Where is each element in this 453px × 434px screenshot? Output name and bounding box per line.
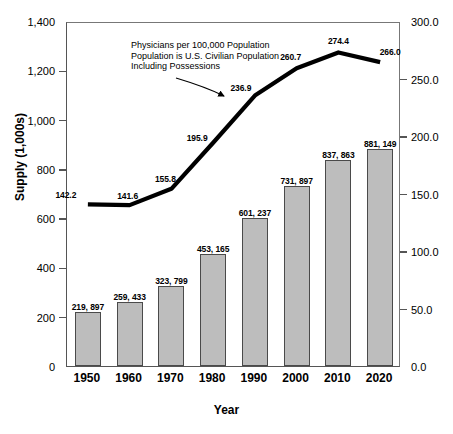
bar-value-label: 323, 799: [155, 276, 187, 286]
y-tick-mark: [59, 169, 66, 170]
right-y-axis: 0.050.0100.0150.0200.0250.0300.0: [400, 22, 453, 367]
y2-tick-mark: [400, 194, 407, 195]
y2-tick-label: 100.0: [411, 246, 439, 258]
y2-tick-label: 300.0: [411, 16, 439, 28]
line-value-label: 195.9: [187, 133, 208, 143]
bar-value-label: 837, 863: [322, 150, 354, 160]
annotation-line-3: Including Possessions: [131, 61, 279, 72]
line-value-label: 260.7: [280, 52, 301, 62]
y2-tick-label: 200.0: [411, 131, 439, 143]
line-value-label: 155.8: [155, 174, 176, 184]
y-tick-label: 1,000: [27, 115, 55, 127]
y-tick-mark: [59, 120, 66, 121]
line-value-label: 274.4: [328, 36, 349, 46]
y2-tick-label: 0.0: [411, 361, 426, 373]
y2-tick-label: 150.0: [411, 189, 439, 201]
x-tick-label: 2010: [324, 371, 351, 385]
x-tick-label: 1970: [157, 371, 184, 385]
y2-tick-mark: [400, 251, 407, 252]
bar-value-label: 881, 149: [364, 139, 396, 149]
y-tick-label: 0: [49, 361, 55, 373]
line-value-label: 236.9: [230, 83, 251, 93]
y2-tick-label: 250.0: [411, 74, 439, 86]
y2-tick-mark: [400, 136, 407, 137]
chart-annotation: Physicians per 100,000 Population Popula…: [131, 40, 279, 72]
bar-value-label: 219, 897: [72, 302, 104, 312]
y2-tick-mark: [400, 79, 407, 80]
x-tick-label: 2000: [282, 371, 309, 385]
annotation-line-2: Population is U.S. Civilian Population: [131, 51, 279, 62]
x-tick-label: 1980: [199, 371, 226, 385]
x-tick-label: 2020: [366, 371, 393, 385]
y-tick-mark: [59, 317, 66, 318]
bar-value-label: 453, 165: [197, 244, 229, 254]
line-value-label: 141.6: [117, 191, 138, 201]
y-tick-label: 600: [37, 213, 55, 225]
x-axis-title: Year: [0, 403, 453, 417]
y-tick-label: 400: [37, 262, 55, 274]
line-value-label: 266.0: [380, 47, 401, 57]
y-tick-label: 1,400: [27, 16, 55, 28]
y-tick-label: 800: [37, 164, 55, 176]
line-value-label: 142.2: [55, 190, 76, 200]
y2-tick-mark: [400, 309, 407, 310]
x-axis: 19501960197019801990200020102020: [66, 371, 400, 391]
y-tick-mark: [59, 71, 66, 72]
y2-tick-label: 50.0: [411, 304, 432, 316]
y-tick-mark: [59, 218, 66, 219]
y-tick-label: 200: [37, 312, 55, 324]
bar-value-label: 259, 433: [113, 292, 145, 302]
bar-value-label: 601, 237: [239, 208, 271, 218]
physician-supply-chart: Supply (1,000s) 02004006008001,0001,2001…: [0, 0, 453, 434]
x-tick-label: 1990: [241, 371, 268, 385]
annotation-line-1: Physicians per 100,000 Population: [131, 40, 279, 51]
plot-area: 142.2141.6155.8195.9236.9260.7274.4266.0…: [66, 22, 400, 367]
x-tick-label: 1960: [115, 371, 142, 385]
bar-value-label: 731, 897: [280, 176, 312, 186]
x-tick-label: 1950: [74, 371, 101, 385]
y-tick-mark: [59, 268, 66, 269]
y-tick-label: 1,200: [27, 65, 55, 77]
